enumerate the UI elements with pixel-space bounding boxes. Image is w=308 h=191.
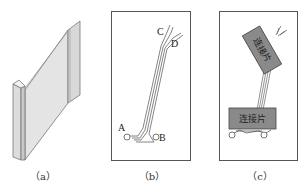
panel-c: 连接片 连接片 （c）	[0, 0, 308, 191]
connector-diagram: 连接片 连接片	[0, 0, 308, 191]
pad-right-icon	[261, 132, 267, 138]
connector-top: 连接片	[242, 26, 281, 74]
svg-text:连接片: 连接片	[239, 113, 266, 124]
connector-bottom: 连接片	[229, 108, 276, 129]
caption-c: （c）	[240, 168, 280, 183]
pad-left-icon	[229, 132, 235, 138]
